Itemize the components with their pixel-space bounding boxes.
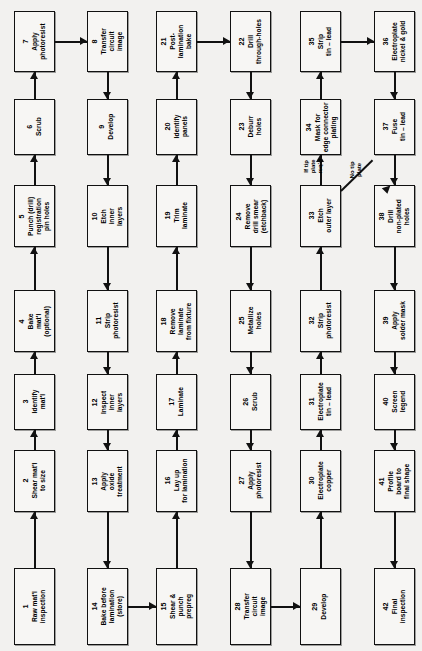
process-box-label: Bake beforelamination(store)	[101, 587, 124, 625]
arrowhead-15-to-16	[172, 512, 180, 519]
process-box-label: Scrub	[251, 393, 259, 412]
connector-41-to-42	[394, 512, 396, 568]
flowchart-canvas: 1Raw mat'linspection2Shear mat'lto size3…	[0, 0, 422, 651]
process-box-number: 5	[18, 196, 26, 235]
connector-27-to-28	[250, 512, 252, 568]
arrowhead-1-to-2	[30, 512, 38, 519]
process-box-label: Stripphotoresist	[104, 303, 120, 339]
process-box-3[interactable]: 3Identifymat'l	[14, 374, 55, 430]
process-box-40[interactable]: 40Screenlegend	[374, 374, 415, 430]
process-box-number: 14	[91, 587, 99, 625]
process-box-label: Trimlaminate	[173, 202, 189, 229]
process-box-label: Finalinspection	[391, 590, 407, 623]
arrowhead-9-to-10	[103, 178, 111, 185]
process-box-22[interactable]: 22Drillthrough-holes	[230, 11, 271, 72]
arrowhead-10-to-11	[103, 283, 111, 290]
edge-label-if-tip-plate: If tipplatereq'd	[300, 156, 326, 182]
process-box-number: 16	[164, 459, 172, 503]
process-box-20[interactable]: 20Identifypanels	[156, 99, 197, 155]
process-box-23[interactable]: 23Deburrholes	[230, 99, 271, 155]
process-box-number: 39	[382, 301, 390, 340]
process-box-11[interactable]: 11Stripphotoresist	[87, 290, 128, 352]
process-box-34[interactable]: 34Mask foredge connectorplating	[300, 99, 341, 155]
process-box-12[interactable]: 12Inspectinnerlayers	[87, 374, 128, 430]
process-box-28[interactable]: 28Transfercircuitimage	[230, 568, 271, 645]
arrowhead-28-to-29	[293, 602, 300, 610]
process-box-26[interactable]: 26Scrub	[230, 374, 271, 430]
process-box-17[interactable]: 17Laminate	[156, 374, 197, 430]
process-box-9[interactable]: 9Develop	[87, 99, 128, 155]
arrowhead-16-to-17	[172, 430, 180, 437]
process-box-label: Shear &punchprepreg	[170, 594, 193, 619]
process-box-16[interactable]: 16Lay upfor lamination	[156, 450, 197, 512]
process-box-number: 17	[168, 387, 176, 416]
connector-15-to-16	[176, 512, 178, 568]
process-box-number: 24	[234, 199, 242, 233]
process-box-number: 20	[164, 115, 172, 139]
process-box-7[interactable]: 7Applyphotoresist	[14, 11, 55, 72]
process-box-label: Applysolder mask	[391, 301, 407, 340]
process-box-25[interactable]: 25Metallizeholes	[230, 290, 271, 352]
process-box-38[interactable]: 38Drillnon-platedholes	[374, 185, 415, 247]
process-box-15[interactable]: 15Shear &punchprepreg	[156, 568, 197, 645]
process-box-number: 11	[95, 303, 103, 339]
arrowhead-26-to-27	[246, 443, 254, 450]
process-box-29[interactable]: 29Develop	[300, 568, 341, 645]
process-box-number: 28	[234, 593, 242, 619]
arrowhead-31-to-32	[316, 352, 324, 359]
process-box-label: Raw mat'linspection	[31, 590, 47, 623]
process-box-label: Stripphotoresist	[317, 303, 333, 339]
process-box-6[interactable]: 6Scrub	[14, 99, 55, 155]
process-box-number: 19	[164, 202, 172, 229]
process-box-1[interactable]: 1Raw mat'linspection	[14, 568, 55, 645]
arrowhead-14-to-15	[149, 602, 156, 610]
process-box-31[interactable]: 31Electroplatetin – lead	[300, 374, 341, 430]
process-box-4[interactable]: 4Bakemat'l(optional)	[14, 290, 55, 352]
process-box-label: Punch (drill)registrationpin holes	[28, 196, 51, 235]
process-box-39[interactable]: 39Applysolder mask	[374, 290, 415, 352]
arrowhead-6-to-7	[30, 72, 38, 79]
process-box-30[interactable]: 30Electroplatecopper	[300, 450, 341, 512]
process-box-number: 37	[382, 112, 390, 141]
process-box-14[interactable]: 14Bake beforelamination(store)	[87, 568, 128, 645]
arrowhead-21-to-22	[223, 37, 230, 45]
arrowhead-8-to-9	[103, 92, 111, 99]
process-box-24[interactable]: 24Removedrill smear(etchback)	[230, 185, 271, 247]
arrowhead-18-to-19	[172, 247, 180, 254]
process-box-number: 33	[308, 199, 316, 233]
process-box-32[interactable]: 32Stripphotoresist	[300, 290, 341, 352]
arrowhead-24-to-25	[246, 283, 254, 290]
process-box-8[interactable]: 8Transfercircuitimage	[87, 11, 128, 72]
process-box-number: 34	[304, 102, 312, 152]
process-box-41[interactable]: 41Profileboard tofinal shape	[374, 450, 415, 512]
process-box-label: Profileboard tofinal shape	[388, 464, 411, 499]
process-box-5[interactable]: 5Punch (drill)registrationpin holes	[14, 185, 55, 247]
process-box-21[interactable]: 21Post-laminationbake	[156, 11, 197, 72]
process-box-number: 23	[238, 116, 246, 138]
process-box-number: 38	[378, 199, 386, 233]
process-box-13[interactable]: 13Applyoxidetreatment	[87, 450, 128, 512]
process-box-label: Post-laminationbake	[170, 25, 193, 58]
process-box-label: Transfercircuitimage	[101, 28, 124, 54]
connector-1-to-2	[34, 512, 36, 568]
process-box-number: 9	[99, 114, 107, 140]
process-box-33[interactable]: 33Etchouter layer	[300, 185, 341, 247]
process-box-37[interactable]: 37Fusetin – lead	[374, 99, 415, 155]
process-box-number: 13	[91, 466, 99, 497]
process-box-number: 15	[160, 594, 168, 619]
process-box-number: 1	[22, 590, 30, 623]
process-box-number: 36	[382, 21, 390, 63]
process-box-2[interactable]: 2Shear mat'lto size	[14, 450, 55, 512]
process-box-42[interactable]: 42Finalinspection	[374, 568, 415, 645]
process-box-19[interactable]: 19Trimlaminate	[156, 185, 197, 247]
process-box-number: 26	[242, 393, 250, 412]
process-box-35[interactable]: 35Striptin – lead	[300, 11, 341, 72]
process-box-36[interactable]: 36Electroplatenickel & gold	[374, 11, 415, 72]
process-box-number: 29	[312, 593, 320, 619]
process-box-27[interactable]: 27Applyphotoresist	[230, 450, 271, 512]
process-box-18[interactable]: 18Removelaminatefrom fixture	[156, 290, 197, 352]
arrowhead-20-to-21	[172, 72, 180, 79]
process-box-number: 7	[22, 23, 30, 59]
process-box-10[interactable]: 10Etchinnerlayers	[87, 185, 128, 247]
connector-13-to-14	[107, 512, 109, 568]
